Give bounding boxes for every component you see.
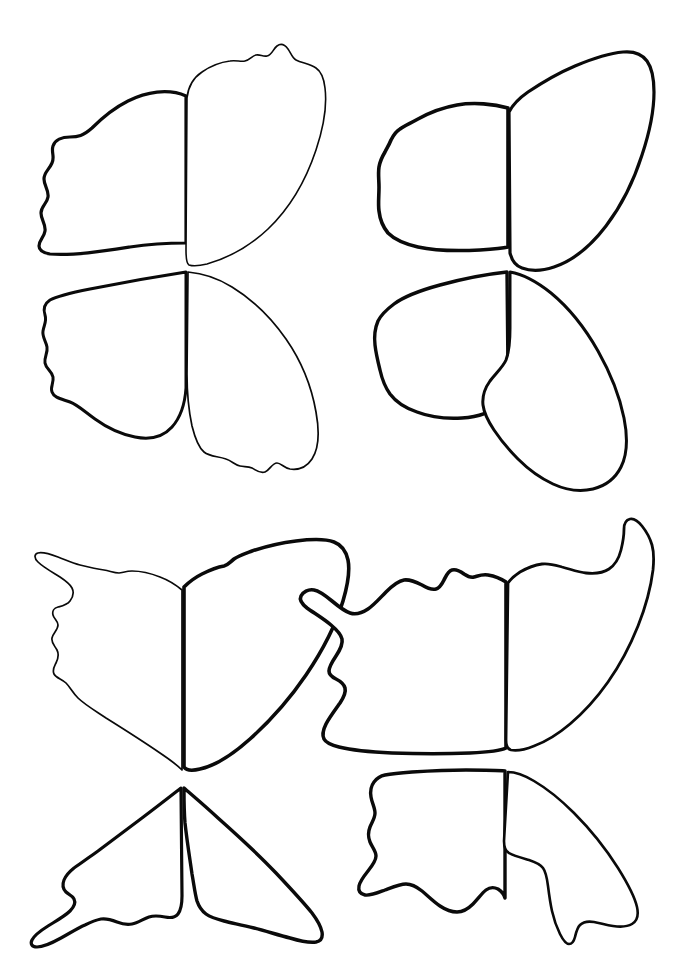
template-sheet bbox=[0, 0, 675, 963]
wing-outline-bottom-right-forewing-right bbox=[359, 770, 505, 912]
butterfly-template-artwork bbox=[0, 0, 675, 963]
